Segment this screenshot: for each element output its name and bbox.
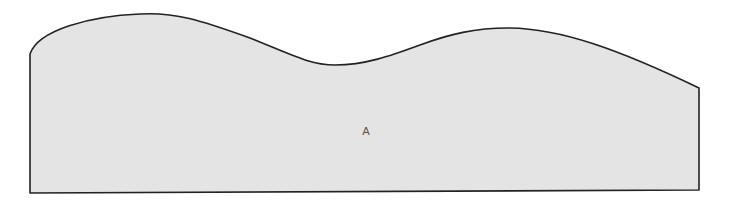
diagram-canvas: A bbox=[0, 0, 729, 201]
region-a-shape bbox=[30, 14, 699, 193]
shape-svg bbox=[0, 0, 729, 201]
region-a-label: A bbox=[362, 125, 370, 138]
